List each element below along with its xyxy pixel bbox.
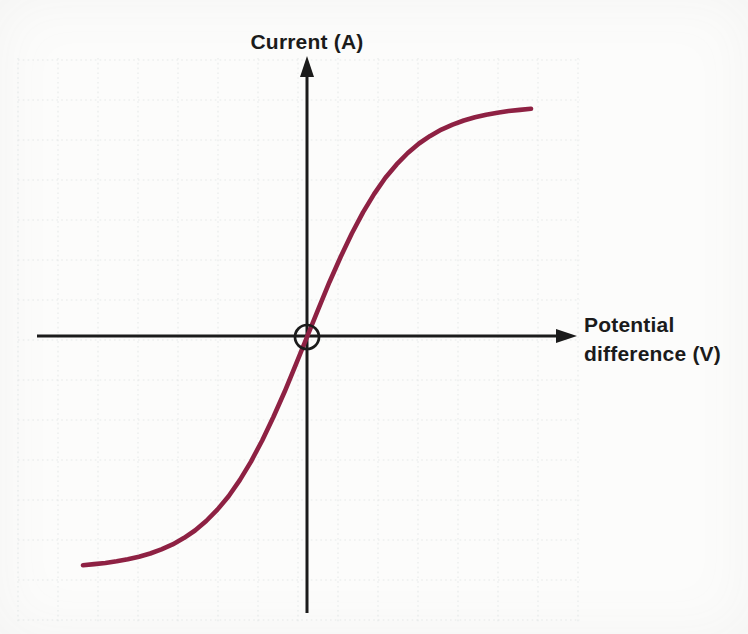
x-axis-label: Potential difference (V): [584, 310, 721, 368]
x-axis-label-line1: Potential: [584, 310, 721, 339]
x-axis-arrow-icon: [556, 329, 577, 343]
x-axis-label-line2: difference (V): [584, 339, 721, 368]
grid: [18, 58, 580, 624]
y-axis-arrow-icon: [300, 56, 314, 77]
filament-lamp-iv-graph: Current (A) Potential difference (V): [0, 0, 748, 634]
y-axis-label: Current (A): [250, 30, 363, 54]
